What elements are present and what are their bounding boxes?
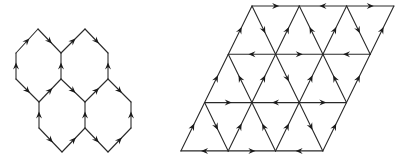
oriented-lattice-figure	[0, 0, 409, 161]
hexagonal-lattice-panel	[13, 29, 134, 152]
triangular-lattice-panel	[181, 3, 394, 154]
